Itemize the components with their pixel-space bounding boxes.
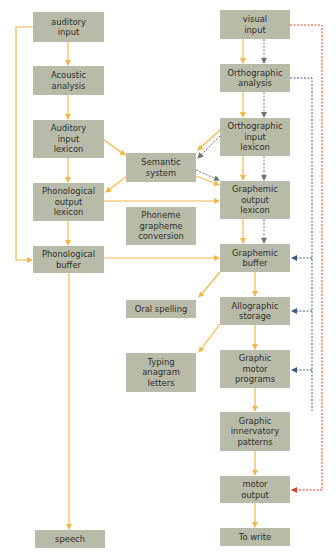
node-graphemic-output-lexicon: Graphemic output lexicon — [220, 181, 290, 219]
node-semantic-system: Semantic system — [126, 153, 196, 182]
node-phonological-buffer: Phonological buffer — [33, 246, 104, 273]
node-visual-input: visual input — [220, 10, 290, 39]
node-auditory-input: auditory input — [33, 12, 104, 42]
blue-dashed-arrows — [290, 78, 312, 411]
node-graphic-innervatory-patterns: Graphic innervatory patterns — [220, 412, 290, 451]
node-typing-anagram-letters: Typing anagram letters — [126, 353, 196, 392]
node-graphic-motor-programs: Graphic motor programs — [220, 350, 290, 388]
node-to-write: To write — [220, 528, 290, 546]
node-orthographic-input-lexicon: Orthographic input lexicon — [220, 118, 290, 156]
node-orthographic-analysis: Orthographic analysis — [220, 64, 290, 92]
node-phoneme-grapheme-conversion: Phoneme grapheme conversion — [126, 207, 196, 245]
node-oral-spelling: Oral spelling — [126, 300, 196, 318]
node-phonological-output-lexicon: Phonological output lexicon — [33, 183, 104, 221]
cognitive-writing-model-diagram: auditory input Acoustic analysis Auditor… — [0, 0, 336, 558]
node-graphemic-buffer: Graphemic buffer — [220, 244, 290, 272]
node-speech: speech — [35, 530, 105, 548]
yellow-arrows — [16, 27, 255, 529]
node-acoustic-analysis: Acoustic analysis — [33, 66, 104, 95]
node-motor-output: motor output — [220, 476, 290, 503]
red-dashed-arrow — [290, 25, 322, 490]
node-auditory-input-lexicon: Auditory input lexicon — [33, 120, 104, 158]
node-allographic-storage: Allographic storage — [220, 297, 290, 325]
